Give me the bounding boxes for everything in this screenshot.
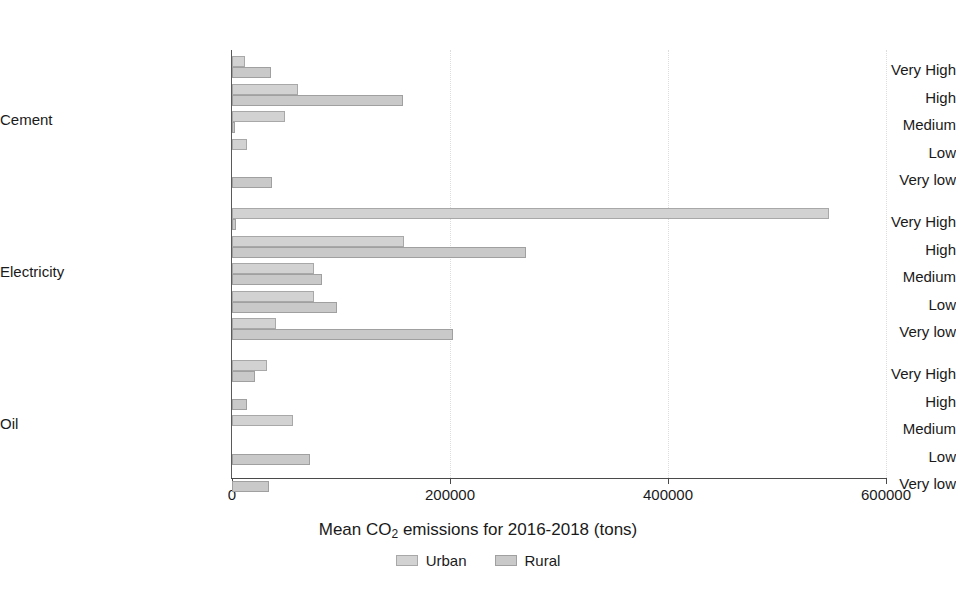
group-label-oil: Oil — [0, 415, 155, 432]
category-label-oil-high: High — [736, 393, 956, 410]
category-label-cement-very-high: Very High — [736, 61, 956, 78]
bar-oil-low-rural — [232, 454, 310, 465]
co2-emissions-bar-chart: 0200000400000600000 Very HighHighMediumL… — [0, 0, 956, 596]
legend-label-urban: Urban — [426, 552, 467, 569]
category-label-electricity-very-low: Very low — [736, 323, 956, 340]
category-label-cement-low: Low — [736, 144, 956, 161]
bar-oil-very-high-urban — [232, 360, 267, 371]
bar-electricity-high-urban — [232, 236, 404, 247]
bar-oil-high-rural — [232, 399, 247, 410]
group-label-electricity: Electricity — [0, 263, 155, 280]
category-label-cement-medium: Medium — [736, 116, 956, 133]
bar-oil-medium-urban — [232, 415, 293, 426]
bar-electricity-low-urban — [232, 291, 314, 302]
bar-oil-very-high-rural — [232, 371, 255, 382]
category-label-electricity-medium: Medium — [736, 268, 956, 285]
bar-cement-very-low-rural — [232, 177, 272, 188]
bar-cement-high-rural — [232, 95, 403, 106]
bar-electricity-medium-urban — [232, 263, 314, 274]
x-axis-title-pre: Mean CO — [319, 520, 392, 539]
x-axis-title: Mean CO2 emissions for 2016-2018 (tons) — [0, 520, 956, 540]
x-axis-title-post: emissions for 2016-2018 (tons) — [398, 520, 637, 539]
bar-electricity-low-rural — [232, 302, 337, 313]
x-tick-200000 — [450, 478, 451, 484]
bar-electricity-very-low-rural — [232, 329, 453, 340]
bar-cement-high-urban — [232, 84, 298, 95]
bar-electricity-medium-rural — [232, 274, 322, 285]
gridline-400000 — [668, 50, 669, 478]
category-label-oil-medium: Medium — [736, 420, 956, 437]
legend-item-rural[interactable]: Rural — [495, 552, 561, 569]
legend-label-rural: Rural — [525, 552, 561, 569]
chart-legend: Urban Rural — [0, 552, 956, 569]
x-axis-title-subscript: 2 — [392, 527, 399, 541]
category-label-oil-very-low: Very low — [736, 475, 956, 492]
category-label-cement-very-low: Very low — [736, 171, 956, 188]
plot-area — [232, 50, 886, 478]
bar-cement-very-high-urban — [232, 56, 245, 67]
x-tick-400000 — [668, 478, 669, 484]
bar-cement-medium-rural — [232, 122, 235, 133]
bar-oil-very-low-rural — [232, 481, 269, 492]
legend-swatch-rural-icon — [495, 555, 517, 566]
bar-cement-medium-urban — [232, 111, 285, 122]
legend-swatch-urban-icon — [396, 555, 418, 566]
group-label-cement: Cement — [0, 111, 155, 128]
bar-electricity-very-low-urban — [232, 318, 276, 329]
category-label-oil-very-high: Very High — [736, 365, 956, 382]
x-tick-label-400000: 400000 — [643, 486, 693, 503]
bar-electricity-high-rural — [232, 247, 526, 258]
bar-electricity-very-high-rural — [232, 219, 236, 230]
x-tick-label-200000: 200000 — [425, 486, 475, 503]
gridline-600000 — [886, 50, 887, 478]
bar-cement-low-urban — [232, 139, 247, 150]
gridline-200000 — [450, 50, 451, 478]
bar-cement-very-high-rural — [232, 67, 271, 78]
category-label-oil-low: Low — [736, 448, 956, 465]
category-label-electricity-low: Low — [736, 296, 956, 313]
category-label-electricity-high: High — [736, 241, 956, 258]
legend-item-urban[interactable]: Urban — [396, 552, 467, 569]
category-label-cement-high: High — [736, 89, 956, 106]
bar-electricity-very-high-urban — [232, 208, 829, 219]
